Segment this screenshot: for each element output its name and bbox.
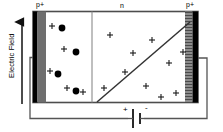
battery-positive-label: + bbox=[123, 106, 128, 114]
region-label-right-pplus: p+ bbox=[186, 1, 194, 8]
region-label-middle-n: n bbox=[120, 2, 124, 9]
device-diagram: Electric Field p+ n p+ + - bbox=[0, 0, 223, 132]
electron-dot-marker bbox=[55, 71, 62, 78]
electron-dot-marker bbox=[73, 88, 80, 95]
electric-field-axis-label: Electric Field bbox=[8, 28, 16, 84]
battery-symbol bbox=[128, 109, 144, 128]
left-contact-black-bar bbox=[33, 12, 38, 103]
diagram-canvas bbox=[0, 0, 223, 132]
device-body-outline bbox=[33, 12, 198, 103]
left-contact-gray-bar bbox=[38, 12, 47, 103]
battery-negative-label: - bbox=[145, 104, 148, 112]
electron-dot-marker bbox=[73, 49, 80, 56]
region-label-left-pplus: p+ bbox=[36, 1, 44, 8]
right-contact-black-bar bbox=[193, 12, 199, 103]
electron-dot-marker bbox=[59, 25, 66, 32]
